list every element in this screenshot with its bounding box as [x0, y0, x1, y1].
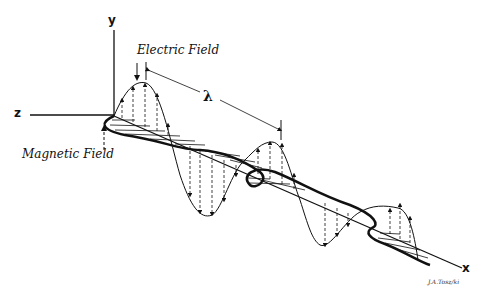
lambda-line-left	[148, 70, 200, 92]
magnetic-field-wave	[105, 116, 430, 265]
axis-y-label: y	[108, 13, 116, 27]
em-wave-diagram: y z x Electric Field Magnetic Field λ J.…	[0, 0, 490, 299]
lambda-line-right	[220, 100, 280, 130]
axis-x-label: x	[462, 261, 470, 275]
electric-field-wave	[114, 82, 418, 260]
wavelength-label: λ	[203, 88, 213, 104]
electric-arrows	[122, 85, 410, 245]
magnetic-field-label: Magnetic Field	[22, 147, 114, 161]
electric-field-label: Electric Field	[137, 43, 219, 57]
axis-z-label: z	[14, 106, 21, 120]
signature: J.A.Tosz/ki	[428, 278, 459, 285]
x-axis	[114, 116, 462, 268]
